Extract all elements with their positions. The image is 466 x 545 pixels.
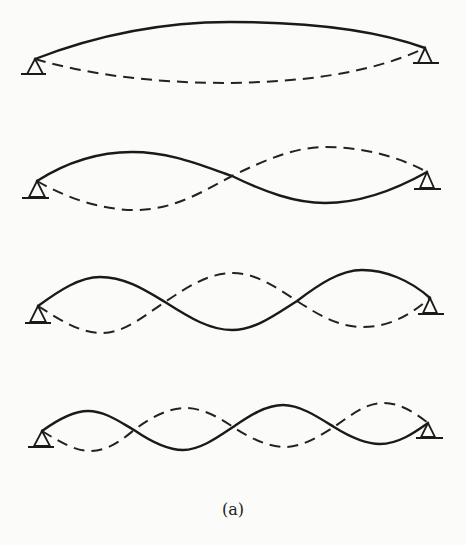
support-icon — [418, 298, 444, 314]
support-icon — [22, 181, 49, 198]
mode-1 — [21, 22, 439, 83]
support-icon — [416, 423, 443, 438]
support-icon — [413, 48, 439, 63]
mode-1-dashed-curve — [35, 48, 425, 83]
mode-4-solid-curve — [42, 405, 428, 450]
support-icon — [28, 431, 54, 447]
mode-3-dashed-curve — [38, 273, 430, 333]
mode-4 — [28, 403, 443, 451]
mode-2-solid-curve — [37, 152, 427, 203]
mode-3 — [25, 270, 444, 333]
beam-mode-shapes-figure: (a) — [0, 0, 466, 545]
mode-1-solid-curve — [35, 22, 425, 59]
mode-3-solid-curve — [38, 270, 430, 330]
figure-caption: (a) — [0, 500, 466, 519]
support-icon — [25, 306, 51, 323]
mode-2 — [22, 147, 441, 210]
support-icon — [414, 172, 441, 189]
